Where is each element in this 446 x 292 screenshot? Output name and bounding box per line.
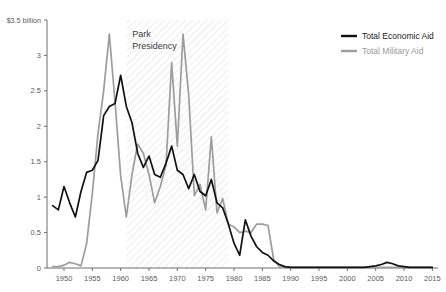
x-tick-label: 1980 [226,274,243,283]
x-axis-ticks: 1950195519601965197019751980198519901995… [56,268,441,283]
x-tick-label: 1960 [112,274,129,283]
x-tick-label: 1985 [254,274,271,283]
x-tick-label: 1975 [197,274,214,283]
x-tick-label: 1955 [84,274,101,283]
chart-container: 00.511.522.53$3.5 billion 19501955196019… [0,0,446,292]
park-presidency-label-line1: Park [132,29,151,39]
y-tick-label: 3 [37,51,41,60]
x-tick-label: 2000 [339,274,356,283]
y-tick-label: $3.5 billion [7,16,41,25]
legend-label-military: Total Military Aid [362,46,424,56]
y-tick-label: 0 [37,264,41,273]
x-tick-label: 1965 [141,274,158,283]
chart-legend: Total Economic Aid Total Military Aid [341,31,434,56]
x-tick-label: 1995 [311,274,328,283]
x-tick-label: 1990 [282,274,299,283]
y-tick-label: 1 [37,193,41,202]
x-tick-label: 1970 [169,274,186,283]
y-tick-label: 2.5 [31,86,41,95]
x-tick-label: 2010 [396,274,413,283]
y-tick-label: 1.5 [31,157,41,166]
y-tick-label: 2 [37,122,41,131]
y-tick-label: 0.5 [31,228,41,237]
legend-label-economic: Total Economic Aid [362,31,434,41]
x-tick-label: 1950 [56,274,73,283]
series-line-total-economic-aid [53,75,433,267]
park-presidency-label-line2: Presidency [132,41,177,51]
x-tick-label: 2015 [424,274,441,283]
line-chart: 00.511.522.53$3.5 billion 19501955196019… [0,0,446,292]
x-tick-label: 2005 [367,274,384,283]
y-axis-ticks: 00.511.522.53$3.5 billion [7,16,47,273]
